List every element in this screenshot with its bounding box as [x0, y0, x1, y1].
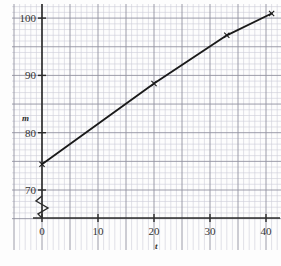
x-tick-label: 10	[93, 225, 105, 237]
x-tick-label: 0	[39, 225, 45, 237]
x-tick-label: 30	[205, 225, 217, 237]
x-tick-label: 40	[261, 225, 273, 237]
y-axis-label: m	[22, 113, 29, 123]
y-tick-label: 70	[25, 184, 37, 196]
grid-minor	[12, 4, 281, 250]
graph-figure: 010203040 708090100 m t	[0, 0, 281, 266]
y-tick-label: 90	[25, 69, 37, 81]
x-tick-label: 20	[149, 225, 161, 237]
y-tick-label: 80	[25, 127, 37, 139]
y-tick-label: 100	[20, 12, 37, 24]
graph-plot-svg: 010203040 708090100 m t	[0, 0, 281, 266]
